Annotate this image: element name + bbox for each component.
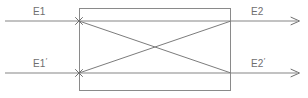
- label-input-top: E1: [33, 6, 46, 17]
- label-output-bottom-prime: ′: [264, 56, 266, 65]
- label-output-top: E2: [251, 6, 264, 17]
- label-input-bottom: E1′: [33, 58, 47, 69]
- label-output-bottom: E2′: [251, 58, 265, 69]
- label-input-bottom-base: E1: [33, 58, 46, 69]
- label-output-bottom-base: E2: [251, 58, 264, 69]
- label-input-bottom-prime: ′: [46, 56, 48, 65]
- figure-canvas: E1 E1′ E2 E2′: [0, 0, 308, 98]
